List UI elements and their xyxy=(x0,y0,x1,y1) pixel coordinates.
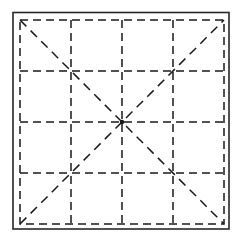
center-intersection xyxy=(120,120,124,124)
dashed-grid-square-figure: Dashed grid square with diagonals A squa… xyxy=(0,0,243,243)
diagram-canvas: Dashed grid square with diagonals A squa… xyxy=(0,0,243,243)
